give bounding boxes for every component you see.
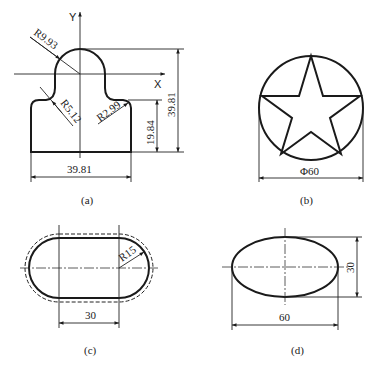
figure-b: Φ60 (b)	[259, 56, 363, 207]
figure-c: R15 30 (c)	[20, 225, 160, 357]
caption-b: (b)	[300, 194, 313, 207]
dim-center-distance: 30	[85, 309, 97, 321]
star	[262, 56, 360, 154]
drawing-canvas: Y X R9.93 R5.12 R2.99 39.81 19.84 39.81	[0, 0, 377, 370]
dim-r9-93: R9.93	[32, 26, 61, 52]
dim-diameter: Φ60	[300, 165, 320, 177]
caption-d: (d)	[291, 344, 304, 357]
dim-width: 39.81	[67, 163, 92, 175]
figure-a: Y X R9.93 R5.12 R2.99 39.81 19.84 39.81	[14, 11, 184, 207]
figure-d: 30 60 (d)	[222, 228, 362, 357]
y-axis-label: Y	[69, 11, 77, 23]
dim-minor-axis: 30	[344, 262, 356, 274]
caption-a: (a)	[81, 194, 94, 207]
circle	[259, 56, 363, 160]
x-axis-label: X	[154, 78, 162, 90]
dim-radius: R15	[116, 243, 138, 264]
dim-major-axis: 60	[279, 311, 291, 323]
dim-total-height: 39.81	[165, 92, 177, 117]
dim-r2-99: R2.99	[94, 98, 123, 124]
dim-shoulder-height: 19.84	[144, 120, 156, 145]
caption-c: (c)	[84, 344, 97, 357]
